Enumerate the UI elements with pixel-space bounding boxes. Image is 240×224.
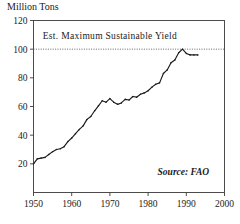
series-data-point [193,54,195,56]
series-data-point [151,86,153,88]
y-tick-label: 20 [18,159,28,169]
chart-annotations: Est. Maximum Sustainable YieldSource: FA… [43,31,210,177]
x-tick-label: 1970 [100,199,119,209]
series-data-point [147,90,149,92]
series-data-point [186,53,188,55]
series-data-point [144,92,146,94]
series-data-point [174,59,176,61]
series-line [34,49,198,164]
series-data-point [63,146,65,148]
series-data-point [102,100,104,102]
series-data-point [113,101,115,103]
series-data-point [98,105,100,107]
y-tick-label: 40 [18,131,28,141]
series-data-point [197,54,199,56]
series-data-point [40,157,42,159]
series-data-point [124,99,126,101]
series-data-point [52,151,54,153]
y-tick-label: 100 [13,45,28,55]
series-data-point [136,96,138,98]
series-data-point [90,116,92,118]
series-data-point [159,82,161,84]
series-data-point [117,104,119,106]
series-data-point [170,62,172,64]
series-data-point [182,48,184,50]
series-data-point [44,157,46,159]
y-tick-label: 60 [18,102,28,112]
msy-label: Est. Maximum Sustainable Yield [43,31,177,41]
data-series [33,48,199,164]
series-data-point [178,52,180,54]
series-data-point [86,119,88,121]
series-data-point [33,163,35,165]
x-tick-label: 1960 [62,199,81,209]
series-data-point [109,98,111,100]
series-data-point [128,99,130,101]
series-data-point [71,137,73,139]
series-data-point [37,158,39,160]
series-data-point [56,149,58,151]
y-axis-ticks: 20406080100120 [13,16,33,169]
series-data-point [48,154,50,156]
x-axis-ticks: 195019601970198019902000 [24,193,234,210]
x-tick-label: 2000 [215,199,234,209]
series-data-point [121,102,123,104]
series-data-point [163,73,165,75]
y-tick-label: 120 [13,16,28,26]
series-data-point [94,110,96,112]
series-data-point [132,96,134,98]
series-data-point [189,54,191,56]
chart-canvas: 20406080100120 195019601970198019902000 … [0,0,240,224]
series-data-point [155,84,157,86]
series-data-point [140,94,142,96]
series-data-point [67,141,69,143]
series-data-point [105,101,107,103]
series-data-point [82,125,84,127]
x-tick-label: 1950 [24,199,43,209]
series-data-point [59,148,61,150]
x-tick-label: 1990 [177,199,196,209]
series-data-point [79,129,81,131]
chart-figure: Million Tons 20406080100120 195019601970… [0,0,240,224]
source-credit: Source: FAO [158,167,210,177]
series-data-point [75,133,77,135]
x-tick-label: 1980 [139,199,158,209]
y-tick-label: 80 [18,73,28,83]
series-data-point [166,69,168,71]
